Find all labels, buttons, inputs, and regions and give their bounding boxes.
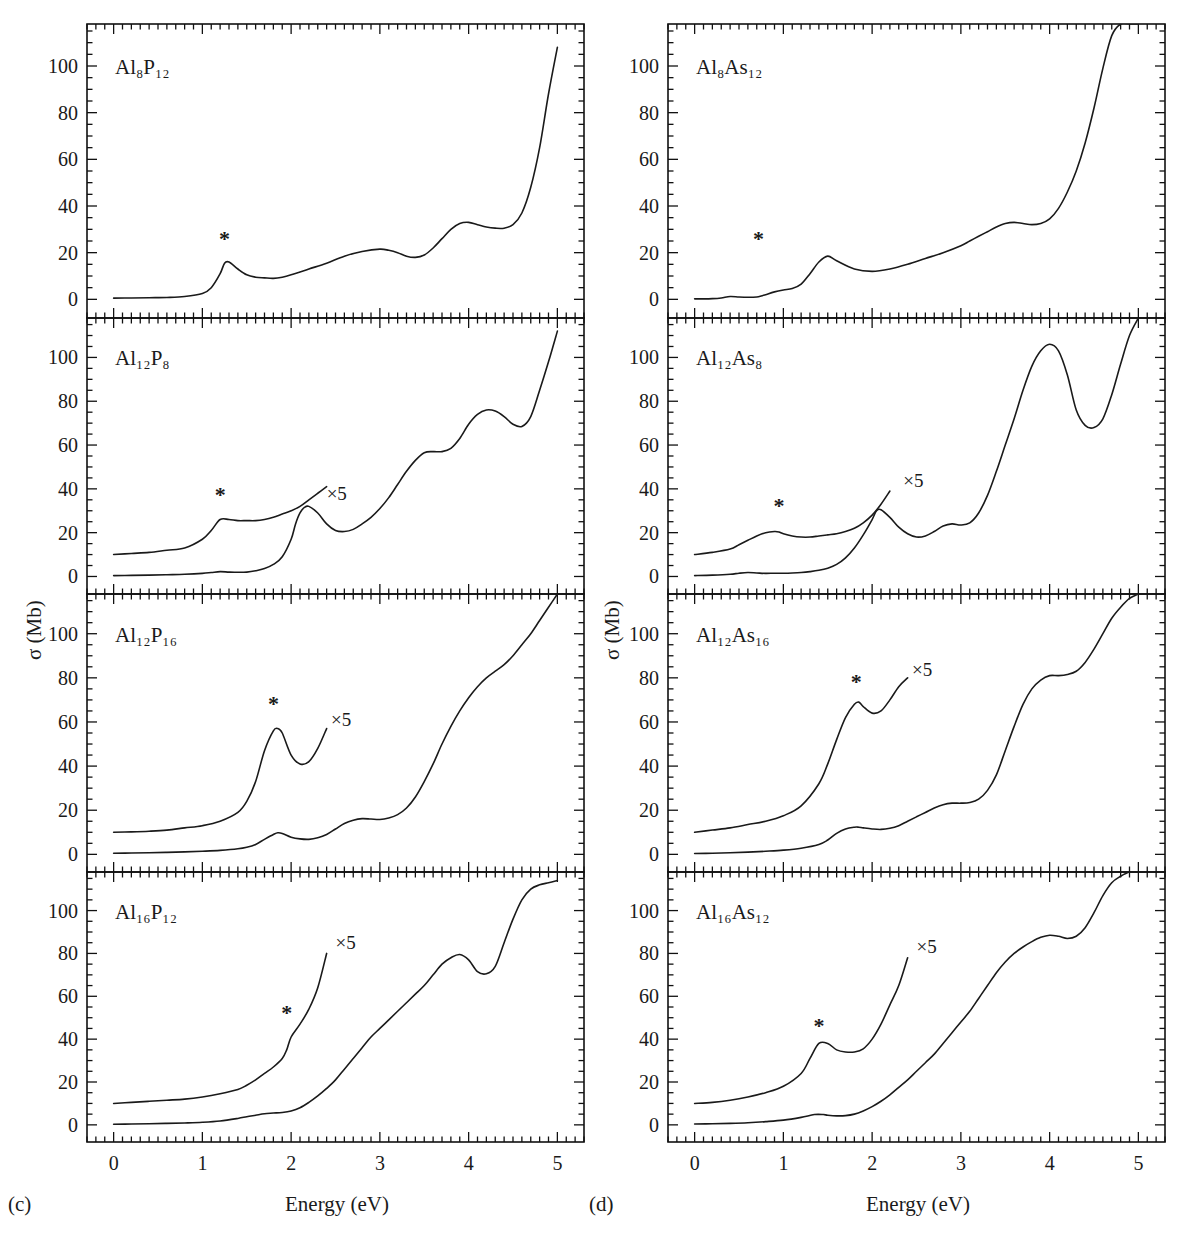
curve-cross-section: [114, 331, 558, 575]
panel-label: Al₈P₁₂: [115, 55, 170, 79]
curve-cross-section-x5: [695, 958, 908, 1104]
y-tick-label: 80: [639, 102, 659, 124]
y-tick-label: 40: [639, 195, 659, 217]
magnification-annotation: ×5: [327, 483, 347, 504]
x-tick-label: 2: [867, 1152, 877, 1174]
x-tick-label: 2: [286, 1152, 296, 1174]
y-tick-label: 60: [58, 148, 78, 170]
curve-group: [114, 331, 558, 575]
y-tick-label: 80: [58, 667, 78, 689]
star-marker: *: [773, 493, 784, 518]
plot-panel-Al16P12: 020406080100012345Al₁₆P₁₂*×5: [25, 864, 600, 1180]
y-tick-label: 40: [58, 195, 78, 217]
y-tick-label: 0: [649, 288, 659, 310]
x-tick-label: 1: [778, 1152, 788, 1174]
curve-group: [114, 47, 558, 298]
plot-panel-Al12As16: 020406080100Al₁₂As₁₆*×5: [606, 586, 1181, 910]
star-marker: *: [281, 1000, 292, 1025]
y-tick-label: 60: [58, 711, 78, 733]
magnification-annotation: ×5: [336, 932, 356, 953]
y-tick-label: 40: [639, 755, 659, 777]
panel-label: Al₁₆P₁₂: [115, 900, 177, 924]
plot-panel-Al8P12: 020406080100Al₈P₁₂*: [25, 16, 600, 356]
curve-cross-section-x5: [114, 953, 327, 1103]
y-tick-label: 0: [68, 843, 78, 865]
star-marker: *: [268, 691, 279, 716]
x-tick-label: 5: [1133, 1152, 1143, 1174]
x-axis-label-left: Energy (eV): [285, 1192, 389, 1217]
panel-label: Al₁₆As₁₂: [696, 900, 770, 924]
magnification-annotation: ×5: [912, 659, 932, 680]
y-tick-label: 80: [639, 942, 659, 964]
y-tick-label: 20: [639, 242, 659, 264]
y-tick-label: 100: [48, 623, 78, 645]
plot-panel-Al12P16: 020406080100Al₁₂P₁₆*×5: [25, 586, 600, 910]
subfigure-label-d: (d): [589, 1192, 614, 1217]
y-tick-label: 60: [58, 985, 78, 1007]
y-tick-label: 80: [639, 390, 659, 412]
x-tick-label: 5: [552, 1152, 562, 1174]
star-marker: *: [813, 1013, 824, 1038]
curve-cross-section: [114, 47, 558, 298]
y-tick-label: 20: [58, 242, 78, 264]
x-tick-label: 4: [464, 1152, 474, 1174]
magnification-annotation: ×5: [917, 936, 937, 957]
y-tick-label: 0: [649, 843, 659, 865]
y-tick-label: 80: [639, 667, 659, 689]
x-tick-label: 3: [375, 1152, 385, 1174]
y-tick-label: 60: [639, 985, 659, 1007]
x-axis-label-right: Energy (eV): [866, 1192, 970, 1217]
curve-cross-section: [114, 881, 558, 1125]
x-tick-label: 0: [690, 1152, 700, 1174]
x-tick-label: 4: [1045, 1152, 1055, 1174]
plot-panel-Al8As12: 020406080100Al₈As₁₂*: [606, 16, 1181, 356]
y-tick-label: 80: [58, 942, 78, 964]
y-tick-label: 100: [48, 55, 78, 77]
curve-group: [114, 881, 558, 1125]
y-tick-label: 0: [68, 288, 78, 310]
y-tick-label: 80: [58, 102, 78, 124]
subfigure-label-c: (c): [8, 1192, 31, 1217]
y-tick-label: 60: [58, 434, 78, 456]
y-tick-label: 0: [649, 1114, 659, 1136]
y-tick-label: 0: [68, 565, 78, 587]
y-tick-label: 60: [639, 711, 659, 733]
curve-cross-section-x5: [114, 728, 327, 832]
panel-label: Al₁₂As₈: [696, 346, 762, 370]
y-tick-label: 20: [639, 799, 659, 821]
y-tick-label: 0: [68, 1114, 78, 1136]
panel-label: Al₁₂As₁₆: [696, 623, 770, 647]
figure-panel-grid: σ (Mb) σ (Mb) 020406080100Al₈P₁₂*0204060…: [0, 0, 1189, 1236]
panel-label: Al₁₂P₈: [115, 346, 170, 370]
plot-panel-Al12P8: 020406080100Al₁₂P₈*×5: [25, 310, 600, 632]
y-tick-label: 100: [48, 346, 78, 368]
y-tick-label: 100: [629, 55, 659, 77]
magnification-annotation: ×5: [331, 709, 351, 730]
curve-cross-section-x5: [695, 491, 890, 555]
y-tick-label: 40: [639, 478, 659, 500]
x-tick-label: 3: [956, 1152, 966, 1174]
y-tick-label: 100: [629, 900, 659, 922]
star-marker: *: [219, 226, 230, 251]
y-tick-label: 0: [649, 565, 659, 587]
y-tick-label: 100: [629, 346, 659, 368]
magnification-annotation: ×5: [903, 470, 923, 491]
x-tick-label: 1: [197, 1152, 207, 1174]
star-marker: *: [215, 482, 226, 507]
y-tick-label: 80: [58, 390, 78, 412]
y-tick-label: 40: [58, 1028, 78, 1050]
y-tick-label: 20: [639, 522, 659, 544]
plot-panel-Al16As12: 020406080100012345Al₁₆As₁₂*×5: [606, 864, 1181, 1180]
y-tick-label: 40: [639, 1028, 659, 1050]
y-tick-label: 20: [58, 522, 78, 544]
y-tick-label: 20: [58, 799, 78, 821]
y-tick-label: 20: [639, 1071, 659, 1093]
y-tick-label: 20: [58, 1071, 78, 1093]
y-tick-label: 40: [58, 478, 78, 500]
panel-label: Al₁₂P₁₆: [115, 623, 177, 647]
y-tick-label: 60: [639, 434, 659, 456]
y-tick-label: 60: [639, 148, 659, 170]
plot-panel-Al12As8: 020406080100Al₁₂As₈*×5: [606, 310, 1181, 632]
x-tick-label: 0: [109, 1152, 119, 1174]
curve-cross-section-x5: [695, 678, 908, 832]
